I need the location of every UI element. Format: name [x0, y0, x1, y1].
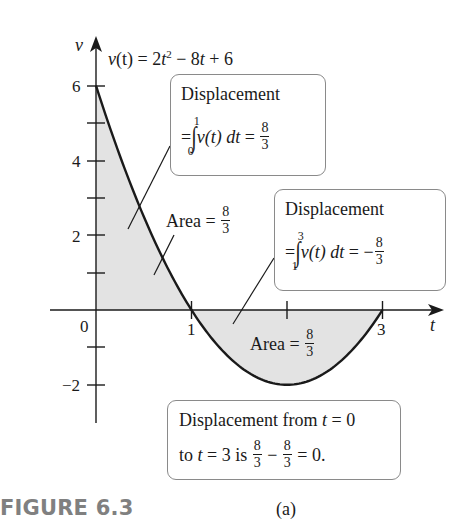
box1-upper-limit: 1: [194, 115, 200, 127]
box2-den: 3: [375, 252, 384, 267]
origin-label: 0: [80, 318, 89, 335]
area1-text: Area =: [166, 212, 220, 230]
box3-line1-a: Displacement from: [179, 410, 322, 430]
box1-equals: =: [240, 128, 259, 146]
eq-rest1: − 8: [172, 49, 200, 69]
v-tick-label-2: 2: [72, 228, 81, 245]
function-equation: v(t) = 2t2 − 8t + 6: [108, 49, 233, 68]
area1-fraction: 83: [221, 205, 230, 236]
area1-num: 8: [221, 205, 230, 221]
eq-arg: (t): [116, 49, 133, 69]
box3-line1: Displacement from t = 0: [179, 411, 355, 429]
box2-equals: = −: [344, 243, 373, 261]
box2-integrand: v(t) dt: [301, 243, 344, 261]
box1-integrand: v(t) dt: [197, 128, 240, 146]
box1-lower-limit: 0: [188, 145, 194, 157]
box3-line2-c: = 0.: [293, 446, 326, 464]
box3-line1-b: = 0: [327, 410, 355, 430]
box1-num: 8: [260, 121, 269, 137]
box2-formula: = ∫ 31 v(t) dt = − 83: [285, 236, 385, 267]
v-axis-label: v: [75, 36, 83, 54]
area2-num: 8: [305, 328, 314, 344]
subfigure-caption: (a): [276, 500, 296, 518]
box1-eq: =: [181, 128, 191, 146]
box3-num1: 8: [253, 439, 262, 455]
figure-label: FIGURE 6.3: [0, 496, 133, 520]
area-label-negative: Area = 83: [250, 328, 315, 359]
box3-den2: 3: [283, 455, 292, 470]
eq-rest2: + 6: [205, 49, 233, 69]
box1-den: 3: [260, 137, 269, 152]
box1-formula: = ∫ 10 v(t) dt = 83: [181, 121, 270, 152]
total-displacement-box: Displacement from t = 0 to t = 3 is 83 −…: [167, 400, 401, 480]
area2-fraction: 83: [305, 328, 314, 359]
box1-title: Displacement: [181, 85, 280, 103]
v-tick-label-4: 4: [72, 153, 81, 170]
area2-den: 3: [305, 344, 314, 359]
box3-minus: −: [263, 446, 282, 464]
eq-lhs: v: [108, 49, 116, 69]
box3-line2-b: = 3 is: [203, 446, 252, 464]
t-axis-label: t: [430, 316, 435, 334]
box3-fraction2: 83: [283, 439, 292, 470]
box3-den1: 3: [253, 455, 262, 470]
box3-num2: 8: [283, 439, 292, 455]
box2-title: Displacement: [285, 200, 384, 218]
area-label-positive: Area = 83: [166, 205, 231, 236]
box3-line2-a: to: [179, 446, 198, 464]
box3-line2: to t = 3 is 83 − 83 = 0.: [179, 439, 326, 470]
box2-fraction: 83: [375, 236, 384, 267]
box2-lower-limit: 1: [292, 260, 298, 272]
v-tick-label-neg2: −2: [62, 377, 80, 394]
displacement-box-1-to-3: Displacement = ∫ 31 v(t) dt = − 83: [274, 189, 446, 291]
t-tick-label-3: 3: [377, 321, 386, 338]
box2-eq: =: [285, 243, 295, 261]
box3-fraction1: 83: [253, 439, 262, 470]
box2-upper-limit: 3: [298, 230, 304, 242]
box2-num: 8: [375, 236, 384, 252]
box1-fraction: 83: [260, 121, 269, 152]
area1-den: 3: [221, 221, 230, 236]
t-tick-label-1: 1: [187, 321, 196, 338]
v-tick-label-6: 6: [72, 78, 81, 95]
eq-eq: = 2: [133, 49, 161, 69]
area2-text: Area =: [250, 335, 304, 353]
displacement-box-0-to-1: Displacement = ∫ 10 v(t) dt = 83: [170, 74, 326, 176]
